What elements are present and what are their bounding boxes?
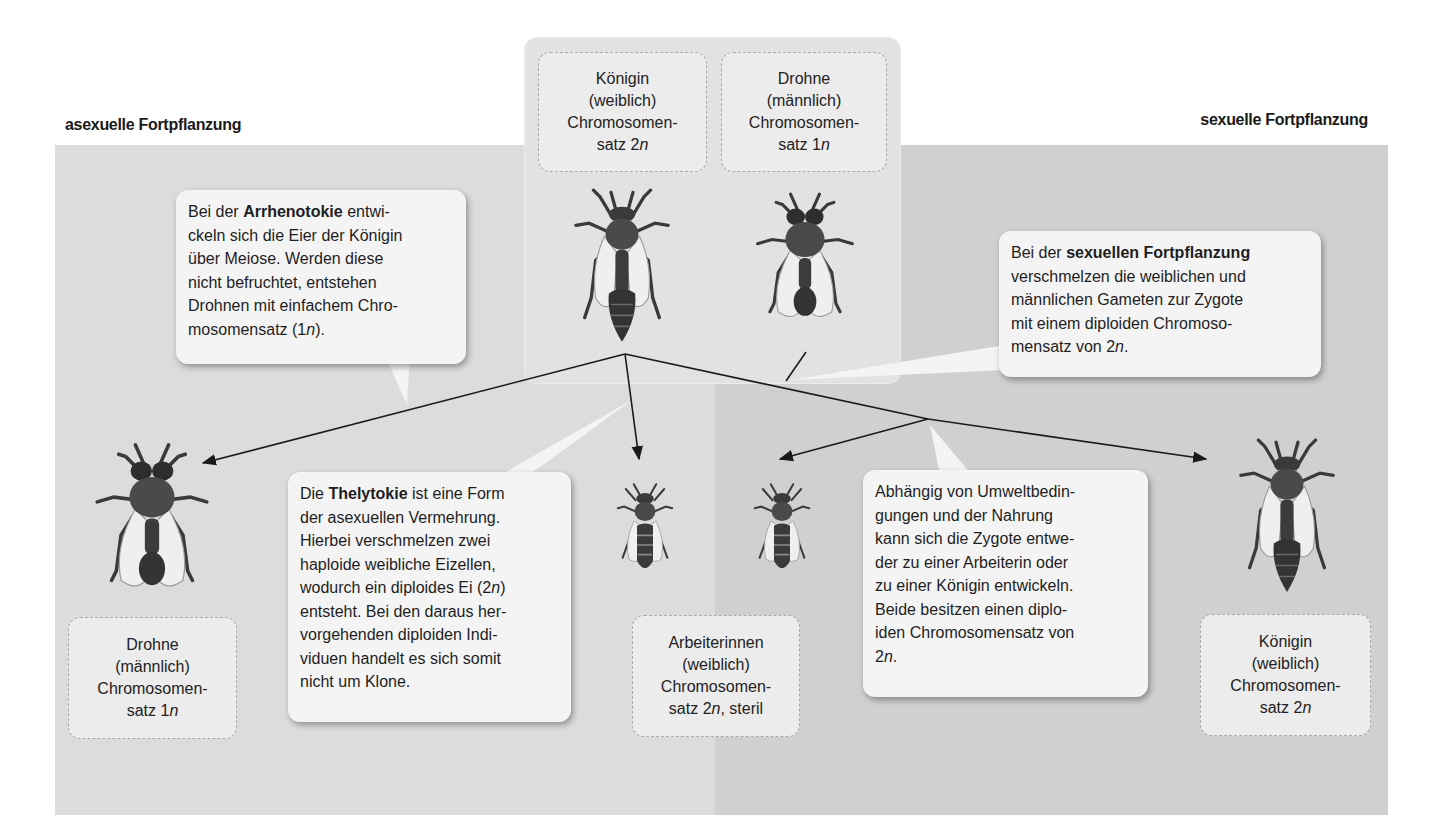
bubble-line: Abhängig von Umweltbedin- [875,480,1136,504]
label-line: Chromosomen- [722,112,886,134]
label-italic: n [639,136,648,153]
bubble-line: Drohnen mit einfachem Chro- [188,294,454,318]
label-italic: n [169,702,178,719]
bubble-line: viduen handelt es sich somit [300,647,559,671]
italic: n [884,648,893,665]
label-line: (männlich) [722,90,886,112]
bubble-line: der asexuellen Vermehrung. [300,506,559,530]
bubble-line: ckeln sich die Eier der Königin [188,224,454,248]
text: wodurch ein diploides Ei (2 [300,579,491,596]
label-line: satz 2n, steril [633,698,799,720]
text: . [893,648,897,665]
label-line: (weiblich) [633,654,799,676]
info-bubble-arrhenotokie: Bei der Arrhenotokie entwi- ckeln sich d… [176,190,466,364]
label-line: Drohne [722,68,886,90]
queen-bee-icon [567,188,677,344]
text: Bei der [188,203,243,220]
label-text: satz 2 [669,700,712,717]
drone-bee-icon [92,440,212,590]
italic: n [1115,338,1124,355]
text: Bei der [1011,244,1066,261]
label-line: satz 1n [69,700,236,722]
drone-bee-icon [750,190,860,320]
label-line: Chromosomen- [633,676,799,698]
text: Die [300,485,328,502]
text: ). [315,321,325,338]
label-text: satz 1 [778,136,821,153]
heading-asexual-reproduction: asexuelle Fortpflanzung [65,116,241,134]
bubble-line: haploide weibliche Eizellen, [300,553,559,577]
bubble-line: vorgehenden diploiden Indi- [300,623,559,647]
label-line: (männlich) [69,656,236,678]
text: 2 [875,648,884,665]
italic: n [306,321,315,338]
bubble-line: iden Chromosomensatz von [875,621,1136,645]
bubble-line: verschmelzen die weiblichen und [1011,265,1309,289]
label-line: Königin [539,68,706,90]
worker-bee-icon [742,470,822,588]
bubble-line: mosomensatz (1n). [188,318,454,342]
bubble-line: Beide besitzen einen diplo- [875,598,1136,622]
bubble-line: entsteht. Bei den daraus her- [300,600,559,624]
label-line: satz 2n [539,134,706,156]
text: entwi- [343,203,390,220]
label-line: Chromosomen- [539,112,706,134]
bubble-line: gungen und der Nahrung [875,504,1136,528]
bubble-line: Die Thelytokie ist eine Form [300,482,559,506]
worker-bee-icon [605,470,685,588]
label-drone-parent: Drohne (männlich) Chromosomen- satz 1n [721,52,887,172]
bubble-line: mensatz von 2n. [1011,335,1309,359]
text: mosomensatz (1 [188,321,306,338]
bubble-line: über Meiose. Werden diese [188,247,454,271]
bubble-line: Bei der Arrhenotokie entwi- [188,200,454,224]
label-text: satz 1 [127,702,170,719]
label-line: Drohne [69,634,236,656]
label-workers-offspring: Arbeiterinnen (weiblich) Chromosomen- sa… [632,615,800,737]
label-line: (weiblich) [1201,653,1370,675]
term-sexual-reproduction: sexuellen Fortpflanzung [1066,244,1250,261]
label-line: satz 2n [1201,697,1370,719]
label-queen-offspring: Königin (weiblich) Chromosomen- satz 2n [1200,614,1371,736]
bubble-line: 2n. [875,645,1136,669]
label-text: , steril [720,700,763,717]
text: . [1124,338,1128,355]
text: ) [500,579,505,596]
term-thelytokie: Thelytokie [328,485,407,502]
term-arrhenotokie: Arrhenotokie [243,203,343,220]
bubble-line: kann sich die Zygote entwe- [875,527,1136,551]
bubble-line: mit einem diploiden Chromoso- [1011,312,1309,336]
info-bubble-thelytokie: Die Thelytokie ist eine Form der asexuel… [288,472,571,722]
label-text: satz 2 [1260,699,1303,716]
label-line: Chromosomen- [1201,675,1370,697]
heading-sexual-reproduction: sexuelle Fortpflanzung [1200,111,1368,129]
bubble-line: zu einer Königin entwickeln. [875,574,1136,598]
info-bubble-sexual-reproduction: Bei der sexuellen Fortpflanzung verschme… [999,231,1321,377]
info-bubble-environment: Abhängig von Umweltbedin- gungen und der… [863,470,1148,697]
label-drone-offspring: Drohne (männlich) Chromosomen- satz 1n [68,617,237,739]
label-text: satz 2 [597,136,640,153]
bubble-line: nicht um Klone. [300,670,559,694]
bubble-line: Hierbei verschmelzen zwei [300,529,559,553]
label-line: Chromosomen- [69,678,236,700]
italic: n [491,579,500,596]
label-queen-parent: Königin (weiblich) Chromosomen- satz 2n [538,52,707,172]
bubble-line: männlichen Gameten zur Zygote [1011,288,1309,312]
bubble-line: der zu einer Arbeiterin oder [875,551,1136,575]
bubble-line: Bei der sexuellen Fortpflanzung [1011,241,1309,265]
label-line: Arbeiterinnen [633,632,799,654]
label-line: Königin [1201,631,1370,653]
label-italic: n [1302,699,1311,716]
text: ist eine Form [408,485,505,502]
bubble-line: nicht befruchtet, entstehen [188,271,454,295]
label-italic: n [821,136,830,153]
label-line: (weiblich) [539,90,706,112]
bubble-line: wodurch ein diploides Ei (2n) [300,576,559,600]
label-line: satz 1n [722,134,886,156]
text: mensatz von 2 [1011,338,1115,355]
queen-bee-icon [1232,436,1342,596]
